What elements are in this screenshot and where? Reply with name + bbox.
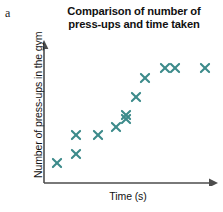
scatter-point	[200, 60, 211, 71]
y-axis-label: Number of press-ups in the gym	[31, 18, 45, 178]
scatter-point	[131, 88, 142, 99]
cross-marker-icon	[170, 63, 181, 74]
scatter-point	[70, 146, 81, 157]
scatter-point	[70, 127, 81, 138]
cross-marker-icon	[139, 72, 150, 83]
chart-title-line-2: press-ups and time taken	[48, 18, 220, 31]
scatter-point	[121, 106, 132, 117]
cross-marker-icon	[70, 130, 81, 141]
scatter-point	[170, 60, 181, 71]
scatter-point	[92, 127, 103, 138]
cross-marker-icon	[52, 157, 63, 168]
chart-title: Comparison of number of press-ups and ti…	[48, 5, 220, 30]
cross-marker-icon	[70, 149, 81, 160]
cross-marker-icon	[121, 109, 132, 120]
chart-title-line-1: Comparison of number of	[48, 5, 220, 18]
part-label: a	[5, 7, 10, 19]
figure-container: a Comparison of number of press-ups and …	[0, 0, 223, 212]
cross-marker-icon	[92, 130, 103, 141]
scatter-point	[52, 154, 63, 165]
scatter-marker-layer	[43, 40, 223, 186]
x-axis-label: Time (s)	[78, 190, 178, 202]
cross-marker-icon	[200, 63, 211, 74]
cross-marker-icon	[131, 91, 142, 102]
scatter-point	[139, 69, 150, 80]
